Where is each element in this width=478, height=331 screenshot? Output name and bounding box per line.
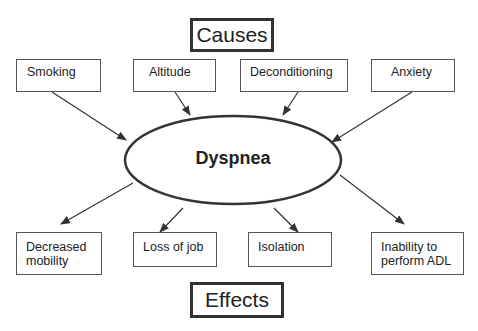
arrow-inability bbox=[340, 175, 404, 224]
effect-line2: mobility bbox=[26, 254, 101, 268]
center-label: Dyspnea bbox=[133, 148, 333, 169]
cause-label: Altitude bbox=[149, 65, 215, 79]
cause-label: Anxiety bbox=[391, 65, 454, 79]
effect-loss-of-job: Loss of job bbox=[133, 232, 217, 267]
arrow-anxiety bbox=[332, 92, 412, 142]
effects-title: Effects bbox=[190, 282, 284, 318]
effect-decreased-mobility: Decreased mobility bbox=[16, 232, 102, 275]
effect-isolation: Isolation bbox=[248, 232, 332, 267]
cause-label: Smoking bbox=[27, 65, 100, 79]
arrow-altitude bbox=[175, 92, 190, 115]
arrow-smoking bbox=[52, 92, 126, 140]
cause-label: Deconditioning bbox=[250, 65, 347, 79]
causes-title: Causes bbox=[190, 18, 274, 52]
arrow-deconditioning bbox=[283, 92, 298, 115]
arrow-loss-of-job bbox=[160, 208, 183, 232]
cause-smoking: Smoking bbox=[16, 59, 101, 92]
cause-anxiety: Anxiety bbox=[371, 59, 455, 92]
cause-altitude: Altitude bbox=[133, 59, 216, 92]
effect-line1: Loss of job bbox=[143, 240, 216, 254]
effect-line1: Decreased bbox=[26, 240, 101, 254]
arrow-decreased-mobility bbox=[61, 183, 133, 224]
effect-line1: Isolation bbox=[258, 240, 331, 254]
effect-inability: Inability to perform ADL bbox=[371, 232, 464, 275]
effect-line1: Inability to bbox=[381, 240, 463, 254]
arrow-isolation bbox=[274, 208, 298, 232]
cause-deconditioning: Deconditioning bbox=[240, 59, 348, 92]
effect-line2: perform ADL bbox=[381, 254, 463, 268]
